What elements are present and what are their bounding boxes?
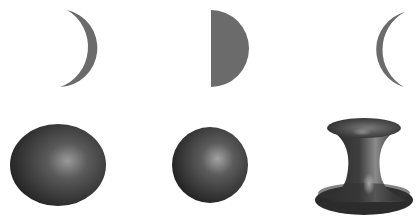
- surfaces-row: [10, 118, 413, 215]
- sphere-shape: [172, 127, 248, 203]
- hyperboloid-shape: [315, 118, 413, 215]
- half-disk-shape: [211, 10, 249, 87]
- crescent-left-shape: [376, 12, 405, 87]
- oblate-ellipsoid-shape: [10, 124, 106, 206]
- crescent-right-shape: [60, 10, 97, 87]
- geometry-figure: [0, 0, 419, 224]
- cross-sections-row: [60, 10, 405, 87]
